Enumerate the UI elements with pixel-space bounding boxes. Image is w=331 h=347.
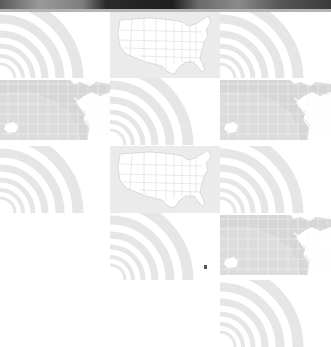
signal-waves-icon[interactable] [220, 280, 331, 347]
mouse-cursor-icon [204, 265, 207, 269]
us-map-thumbnail[interactable] [110, 146, 221, 213]
signal-waves-icon[interactable] [220, 146, 331, 213]
signal-waves-icon[interactable] [220, 12, 331, 79]
signal-waves-icon[interactable] [0, 12, 111, 79]
us-map-thumbnail[interactable] [110, 12, 221, 79]
signal-waves-icon[interactable] [110, 78, 221, 145]
world-map-thumbnail[interactable] [0, 78, 111, 145]
banner-photo-strip [0, 0, 331, 9]
world-map-thumbnail[interactable] [220, 213, 331, 280]
signal-waves-icon[interactable] [110, 213, 221, 280]
world-map-thumbnail[interactable] [220, 78, 331, 145]
signal-waves-icon[interactable] [0, 146, 111, 213]
